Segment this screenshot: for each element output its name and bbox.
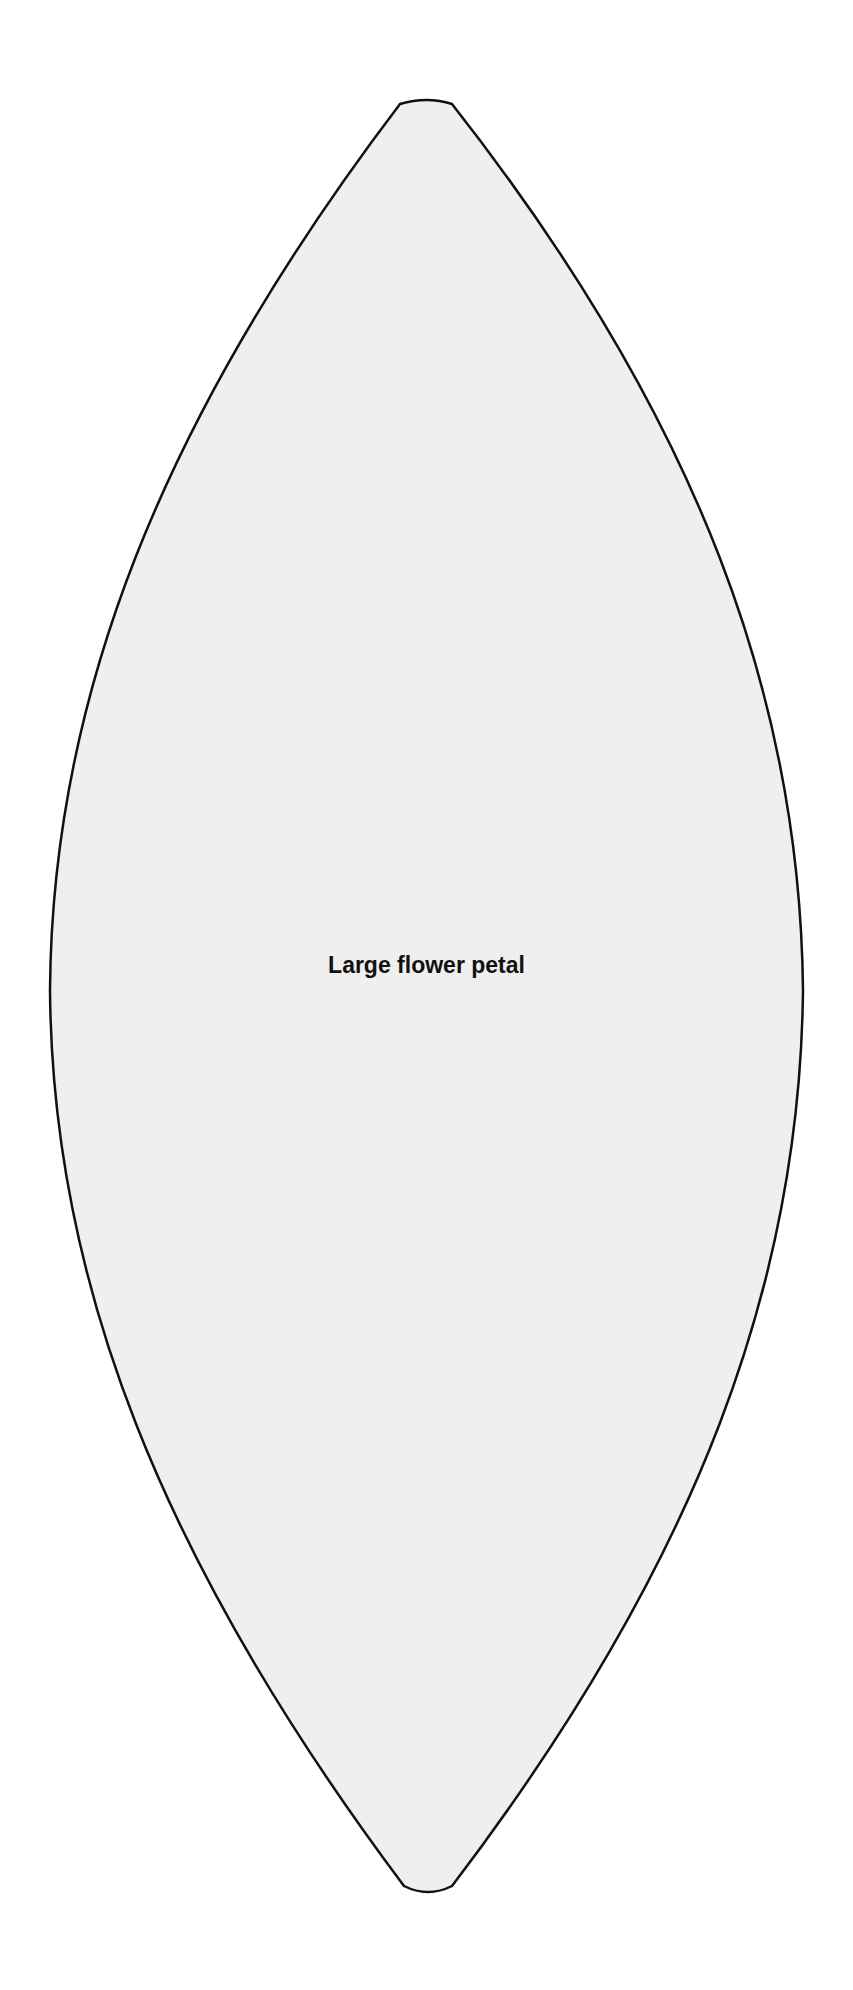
petal-shape [0,0,853,1990]
petal-label: Large flower petal [0,952,853,979]
